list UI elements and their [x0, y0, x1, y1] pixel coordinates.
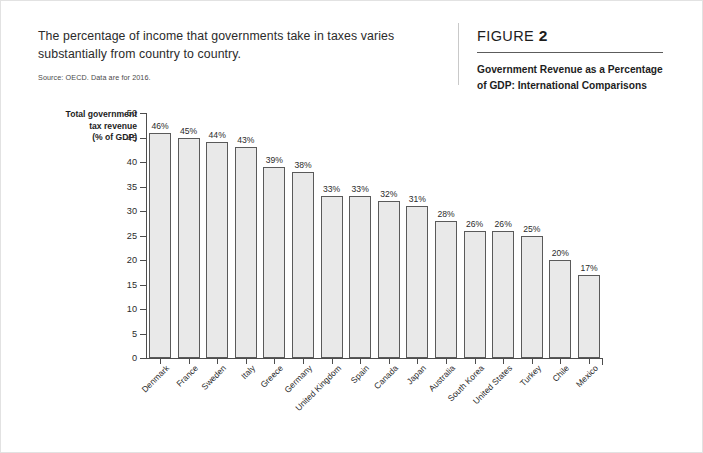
bar-group[interactable]: 45%: [178, 105, 200, 358]
bar[interactable]: [178, 138, 200, 359]
intro-text: The percentage of income that government…: [38, 27, 428, 63]
bar[interactable]: [206, 142, 228, 358]
bar-value-label: 46%: [151, 121, 168, 131]
bar-group[interactable]: 33%: [321, 105, 343, 358]
x-axis-tick-mark: [160, 358, 161, 364]
bar[interactable]: [578, 275, 600, 358]
bar[interactable]: [549, 260, 571, 358]
plot-area: 05101520253035404550 46%45%44%43%39%38%3…: [146, 105, 651, 365]
bar[interactable]: [435, 221, 457, 358]
x-axis-tick-mark: [532, 358, 533, 364]
y-axis-tick-label: 5: [132, 329, 137, 339]
bar-group[interactable]: 17%: [578, 105, 600, 358]
y-axis-tick-label: 0: [132, 353, 137, 363]
intro-block: The percentage of income that government…: [38, 27, 428, 82]
x-axis-tick-mark: [303, 358, 304, 364]
y-axis-tick-label: 50: [127, 108, 137, 118]
bar-value-label: 33%: [323, 184, 340, 194]
y-axis-line: [146, 113, 147, 358]
y-axis-tick-mark: [140, 285, 146, 286]
y-axis-tick-label: 45: [127, 133, 137, 143]
x-axis-tick-mark: [560, 358, 561, 364]
x-axis-category-label: Canada: [372, 363, 400, 391]
x-axis-tick-mark: [274, 358, 275, 364]
bar-value-label: 28%: [437, 209, 454, 219]
bar-value-label: 20%: [552, 248, 569, 258]
x-axis-tick-mark: [446, 358, 447, 364]
figure-number: 2: [539, 27, 548, 44]
bar[interactable]: [235, 147, 257, 358]
figure-page: The percentage of income that government…: [0, 0, 703, 453]
bar[interactable]: [406, 206, 428, 358]
panel-divider: [458, 23, 459, 85]
bar-value-label: 31%: [409, 194, 426, 204]
page-header: The percentage of income that government…: [1, 1, 703, 105]
bar[interactable]: [378, 201, 400, 358]
bar-group[interactable]: 38%: [292, 105, 314, 358]
bar[interactable]: [292, 172, 314, 358]
bar-group[interactable]: 46%: [149, 105, 171, 358]
y-axis-tick-mark: [140, 162, 146, 163]
bar[interactable]: [521, 236, 543, 359]
x-axis-category-label: Spain: [349, 363, 371, 385]
bar[interactable]: [464, 231, 486, 358]
y-axis-tick-mark: [140, 236, 146, 237]
bar-value-label: 39%: [266, 155, 283, 165]
bar-group[interactable]: 26%: [464, 105, 486, 358]
y-axis-tick-mark: [140, 260, 146, 261]
figure-label: FIGURE 2: [477, 27, 673, 45]
bar-value-label: 17%: [580, 263, 597, 273]
y-axis-tick-mark: [140, 358, 146, 359]
bar-value-label: 45%: [180, 126, 197, 136]
x-axis-category-label: Sweden: [199, 363, 228, 392]
x-axis-category-label: Mexico: [574, 363, 600, 389]
y-axis-tick-label: 30: [127, 206, 137, 216]
bar[interactable]: [321, 196, 343, 358]
bar-value-label: 32%: [380, 189, 397, 199]
x-axis-tick-mark: [246, 358, 247, 364]
bar-value-label: 38%: [294, 160, 311, 170]
y-axis-tick-label: 20: [127, 255, 137, 265]
y-axis-tick-mark: [140, 211, 146, 212]
bar[interactable]: [149, 133, 171, 358]
y-axis-title-line-1: Total government: [49, 109, 137, 121]
x-axis-category-label: Denmark: [140, 363, 171, 394]
x-axis-category-label: Chile: [551, 363, 572, 384]
x-axis-tick-mark: [475, 358, 476, 364]
bar-chart: Total government tax revenue (% of GDP) …: [1, 105, 703, 453]
x-axis-end-tick: [602, 358, 603, 365]
x-axis-category-label: Turkey: [518, 363, 543, 388]
x-axis-tick-mark: [189, 358, 190, 364]
y-axis-title-line-3: (% of GDP): [49, 132, 137, 144]
bar-group[interactable]: 31%: [406, 105, 428, 358]
x-axis-line: [146, 358, 603, 359]
y-axis-title-line-2: tax revenue: [49, 121, 137, 133]
x-axis-category-label: Italy: [239, 363, 257, 381]
bar-value-label: 43%: [237, 135, 254, 145]
bar-group[interactable]: 33%: [349, 105, 371, 358]
figure-title: Government Revenue as a Percentage of GD…: [477, 62, 673, 93]
x-axis-tick-mark: [389, 358, 390, 364]
y-axis-tick-mark: [140, 113, 146, 114]
x-axis-tick-mark: [589, 358, 590, 364]
figure-label-word: FIGURE: [477, 28, 534, 44]
bar-group[interactable]: 39%: [263, 105, 285, 358]
bar-group[interactable]: 44%: [206, 105, 228, 358]
x-axis-category-label: France: [174, 363, 200, 389]
y-axis-title: Total government tax revenue (% of GDP): [49, 109, 137, 144]
bar-group[interactable]: 26%: [492, 105, 514, 358]
y-axis-tick-mark: [140, 187, 146, 188]
bar[interactable]: [263, 167, 285, 358]
bar-value-label: 33%: [352, 184, 369, 194]
bar[interactable]: [349, 196, 371, 358]
bar-value-label: 25%: [523, 224, 540, 234]
bar-group[interactable]: 32%: [378, 105, 400, 358]
bar-group[interactable]: 43%: [235, 105, 257, 358]
bar-group[interactable]: 25%: [521, 105, 543, 358]
bar-value-label: 44%: [209, 130, 226, 140]
y-axis-tick-mark: [140, 334, 146, 335]
bar-group[interactable]: 20%: [549, 105, 571, 358]
bar[interactable]: [492, 231, 514, 358]
bar-group[interactable]: 28%: [435, 105, 457, 358]
x-axis-category-label: Greece: [259, 363, 286, 390]
